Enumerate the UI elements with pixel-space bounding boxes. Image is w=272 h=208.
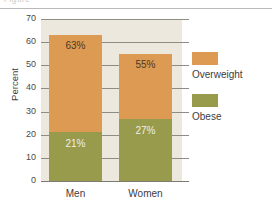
y-tick-label: 10 bbox=[0, 153, 36, 162]
legend-item-obese: Obese bbox=[192, 94, 272, 122]
clipped-header-text: Figure bbox=[4, 0, 30, 4]
bar-segment-overweight: 63% bbox=[49, 35, 102, 132]
y-tick-label: 20 bbox=[0, 130, 36, 139]
bar-value-label-overweight: 55% bbox=[119, 60, 172, 70]
bar-women: 55%27% bbox=[119, 54, 172, 181]
bar-value-label-obese: 27% bbox=[119, 126, 172, 136]
gridline bbox=[41, 19, 189, 20]
y-axis-title: Percent bbox=[9, 50, 20, 120]
y-tick-label: 70 bbox=[0, 14, 36, 23]
legend-item-overweight: Overweight bbox=[192, 52, 272, 80]
x-tick-label-women: Women bbox=[111, 188, 181, 199]
legend-label-overweight: Overweight bbox=[192, 69, 272, 80]
bar-segment-overweight: 55% bbox=[119, 54, 172, 119]
legend-swatch-overweight bbox=[192, 52, 218, 65]
x-tick-label-men: Men bbox=[41, 188, 111, 199]
stacked-bar-chart: 706050403020100 Percent 63%21%55%27% Men… bbox=[0, 9, 272, 208]
chart-legend: OverweightObese bbox=[192, 52, 272, 136]
gridline bbox=[41, 181, 189, 182]
bar-value-label-obese: 21% bbox=[49, 139, 102, 149]
bar-segment-obese: 27% bbox=[119, 119, 172, 181]
y-tick-label: 60 bbox=[0, 37, 36, 46]
legend-swatch-obese bbox=[192, 94, 218, 107]
bar-men: 63%21% bbox=[49, 35, 102, 181]
y-tick-label: 0 bbox=[0, 176, 36, 185]
bar-value-label-overweight: 63% bbox=[49, 41, 102, 51]
bar-segment-obese: 21% bbox=[49, 132, 102, 181]
legend-label-obese: Obese bbox=[192, 111, 272, 122]
